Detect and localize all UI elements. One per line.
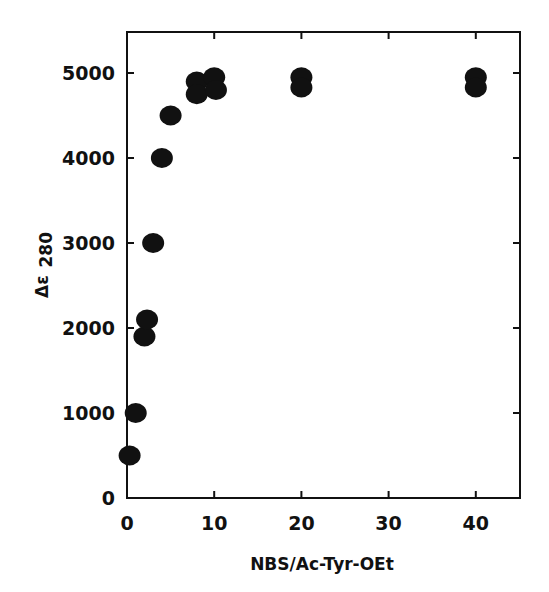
scatter-chart: 010002000300040005000 010203040 NBS/Ac-T… — [0, 0, 549, 592]
x-tick-label: 30 — [375, 512, 401, 534]
plot-frame — [127, 32, 520, 498]
x-tick-label: 40 — [463, 512, 489, 534]
y-tick-label: 2000 — [62, 317, 115, 339]
data-point — [136, 310, 158, 330]
y-tick-label: 3000 — [62, 232, 115, 254]
y-axis-label-sub: 280 — [36, 232, 56, 268]
y-axis-ticks: 010002000300040005000 — [62, 62, 520, 509]
y-axis-label: Δε 280 — [32, 232, 56, 298]
data-point — [142, 233, 164, 253]
data-point — [125, 403, 147, 423]
x-tick-label: 10 — [201, 512, 227, 534]
data-points — [119, 67, 487, 465]
svg-text:Δε 280: Δε 280 — [32, 232, 56, 298]
y-tick-label: 0 — [102, 487, 115, 509]
data-point — [186, 84, 208, 104]
data-point — [290, 77, 312, 97]
data-point — [133, 327, 155, 347]
y-tick-label: 1000 — [62, 402, 115, 424]
data-point — [160, 106, 182, 126]
x-tick-label: 0 — [120, 512, 133, 534]
y-tick-label: 4000 — [62, 147, 115, 169]
x-tick-label: 20 — [288, 512, 314, 534]
x-axis-label: NBS/Ac-Tyr-OEt — [250, 554, 394, 574]
data-point — [205, 80, 227, 100]
data-point — [119, 446, 141, 466]
y-axis-label-main: Δε — [32, 275, 52, 298]
y-tick-label: 5000 — [62, 62, 115, 84]
data-point — [465, 77, 487, 97]
data-point — [151, 148, 173, 168]
